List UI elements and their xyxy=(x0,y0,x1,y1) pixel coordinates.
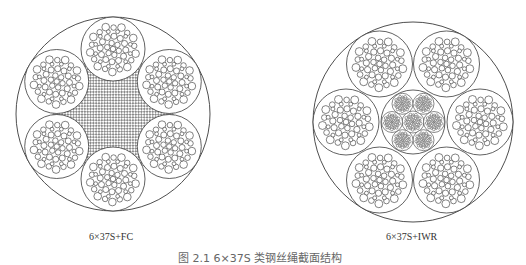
wire xyxy=(483,138,487,142)
wire xyxy=(426,137,428,139)
wire xyxy=(110,176,115,181)
wire xyxy=(167,57,173,63)
wire xyxy=(398,141,400,143)
wire xyxy=(427,67,431,71)
wire xyxy=(432,127,433,128)
wire xyxy=(42,149,48,155)
wire xyxy=(422,101,424,103)
wire xyxy=(116,30,120,34)
wire xyxy=(128,182,132,186)
wire xyxy=(400,109,401,110)
wire xyxy=(399,181,407,189)
wire xyxy=(106,194,110,198)
wire xyxy=(429,143,431,145)
wire xyxy=(482,115,488,121)
wire xyxy=(437,127,440,130)
wire xyxy=(406,123,407,124)
wire xyxy=(442,55,448,61)
wire xyxy=(405,101,407,103)
wire xyxy=(172,146,177,151)
wire xyxy=(408,99,411,102)
wire xyxy=(421,104,423,106)
wire xyxy=(451,50,457,56)
wire xyxy=(75,147,83,155)
wire xyxy=(390,79,398,87)
wire xyxy=(396,102,397,103)
wire xyxy=(429,117,430,118)
wire xyxy=(466,111,472,117)
wire xyxy=(180,96,188,104)
wire xyxy=(91,56,97,62)
wire xyxy=(442,84,450,92)
wire xyxy=(339,138,343,142)
wire xyxy=(382,196,386,200)
wire xyxy=(66,144,72,150)
wire xyxy=(424,145,425,146)
wire xyxy=(329,102,335,108)
wire xyxy=(360,57,364,61)
wire xyxy=(382,73,388,79)
wire xyxy=(173,68,179,74)
wire xyxy=(406,145,409,148)
wire xyxy=(165,166,173,174)
wire xyxy=(67,67,71,71)
wire xyxy=(155,149,161,155)
wire xyxy=(112,182,117,187)
wire xyxy=(417,105,418,106)
wire xyxy=(483,121,489,127)
wire xyxy=(394,140,397,143)
wire xyxy=(104,164,110,170)
wire xyxy=(168,85,173,90)
wire xyxy=(326,125,330,129)
wire xyxy=(427,140,429,142)
wire xyxy=(421,141,423,143)
wire xyxy=(363,107,371,115)
wire xyxy=(97,45,103,51)
wire xyxy=(395,121,397,123)
wire xyxy=(35,154,41,160)
wire xyxy=(417,117,418,118)
wire xyxy=(437,121,439,123)
wire xyxy=(355,113,361,119)
wire xyxy=(478,106,484,112)
wire xyxy=(440,80,444,84)
wire xyxy=(324,130,330,136)
wire xyxy=(454,184,460,190)
outer-strand xyxy=(81,17,145,81)
wire xyxy=(180,157,184,161)
wire xyxy=(398,135,399,136)
wire xyxy=(177,86,183,92)
wire xyxy=(438,175,444,181)
wire xyxy=(377,177,383,183)
wire xyxy=(403,145,404,146)
wire xyxy=(382,80,386,84)
wire xyxy=(162,83,167,88)
wire xyxy=(396,105,397,106)
wire xyxy=(99,39,105,45)
wire xyxy=(168,150,173,155)
wire xyxy=(429,138,430,139)
wire xyxy=(421,99,423,101)
wire xyxy=(458,49,462,53)
wire xyxy=(372,181,378,187)
wire xyxy=(180,67,184,71)
wire xyxy=(55,66,61,72)
wire xyxy=(348,115,354,121)
wire xyxy=(331,125,337,131)
wire xyxy=(42,157,46,161)
wire xyxy=(150,140,154,144)
wire xyxy=(94,182,98,186)
wire xyxy=(109,40,114,45)
wire xyxy=(421,109,422,110)
wire xyxy=(186,67,194,75)
wire xyxy=(150,84,154,88)
wire xyxy=(406,144,407,145)
wire xyxy=(444,177,450,183)
wire xyxy=(344,97,350,103)
wire xyxy=(153,77,159,83)
wire xyxy=(406,99,407,100)
wire xyxy=(378,67,384,73)
wire xyxy=(342,132,348,138)
wire xyxy=(363,44,369,50)
wire xyxy=(429,121,431,123)
